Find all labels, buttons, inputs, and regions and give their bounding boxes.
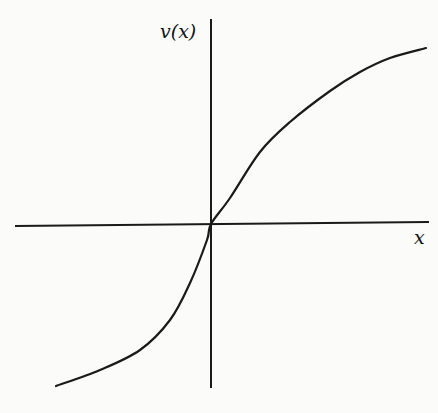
value-function-diagram: v(x) x (0, 0, 438, 413)
y-axis-label: v(x) (160, 20, 196, 42)
x-axis (15, 222, 429, 226)
x-axis-label: x (414, 226, 425, 248)
value-curve (56, 48, 426, 386)
